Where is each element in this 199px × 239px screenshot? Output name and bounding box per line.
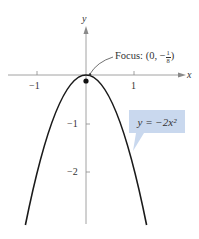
focus-leader-dot — [89, 73, 91, 75]
x-tick-label-1: 1 — [131, 80, 136, 91]
focus-fraction-den: 8 — [167, 58, 170, 65]
focus-leader-line — [90, 57, 113, 74]
y-axis-label: y — [82, 13, 86, 24]
y-tick-label-neg2: −2 — [67, 166, 78, 177]
callout-pointer — [133, 133, 144, 151]
y-axis-arrow-icon — [84, 26, 89, 34]
focus-suffix: ) — [171, 50, 175, 61]
y-tick-label-neg1: −1 — [67, 118, 78, 129]
focus-annotation: Focus: (0, −18) — [115, 50, 174, 64]
focus-prefix: Focus: (0, − — [115, 50, 166, 61]
equation-callout: y = −2x² — [129, 110, 185, 133]
x-axis-arrow-icon — [178, 73, 186, 78]
x-axis-label: x — [187, 69, 191, 80]
focus-point — [83, 78, 88, 83]
x-tick-label-neg1: −1 — [29, 80, 40, 91]
